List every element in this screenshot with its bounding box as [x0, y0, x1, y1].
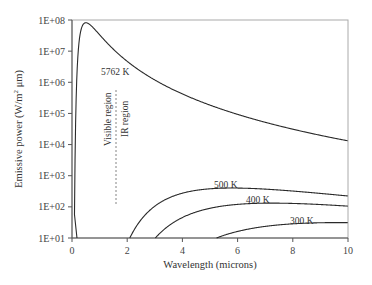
emissive-power-chart: 1E+011E+021E+031E+041E+051E+061E+071E+08…: [0, 0, 372, 285]
y-tick-label: 1E+02: [38, 201, 65, 212]
x-axis-title: Wavelength (microns): [163, 259, 257, 271]
y-tick-label: 1E+08: [38, 15, 65, 26]
label-visible-region: Visible region: [103, 92, 113, 146]
label-500k: 500 K: [214, 180, 238, 190]
label-5762k: 5762 K: [101, 67, 129, 77]
y-tick-label: 1E+05: [38, 108, 65, 119]
curve-400k: [155, 203, 347, 238]
x-tick-label: 0: [70, 245, 75, 256]
x-tick-label: 2: [125, 245, 130, 256]
plot-frame: [72, 20, 348, 238]
x-tick-label: 8: [290, 245, 295, 256]
x-tick-label: 4: [180, 245, 185, 256]
label-400k: 400 K: [246, 195, 270, 205]
curve-300k: [217, 223, 348, 238]
y-axis-ticks: 1E+011E+021E+031E+041E+051E+061E+071E+08: [38, 15, 72, 244]
y-tick-label: 1E+04: [38, 139, 65, 150]
curves: [74, 23, 347, 238]
y-tick-label: 1E+06: [38, 77, 65, 88]
x-tick-label: 6: [235, 245, 240, 256]
label-ir-region: IR region: [120, 101, 130, 137]
y-tick-label: 1E+07: [38, 46, 65, 57]
x-tick-label: 10: [343, 245, 353, 256]
label-300k: 300 K: [290, 216, 314, 226]
x-axis-ticks: 0246810: [70, 238, 354, 256]
curve-5762k: [74, 23, 347, 238]
y-axis-title: Emissive power (W/m2 μm): [12, 70, 25, 188]
y-tick-label: 1E+01: [38, 233, 65, 244]
y-tick-label: 1E+03: [38, 170, 65, 181]
